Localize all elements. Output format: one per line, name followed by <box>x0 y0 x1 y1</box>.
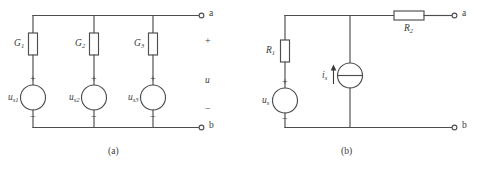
conductance-g1-label: G1 <box>14 39 24 49</box>
voltage-source-us1-body <box>21 85 46 110</box>
conductance-g3-label: G3 <box>134 39 144 49</box>
panel-b-graphics <box>273 11 457 130</box>
panel-b-terminal-a-label: a <box>462 9 466 19</box>
voltage-source-us-minus-sign: − <box>282 114 288 124</box>
conductance-g3-body <box>149 33 158 55</box>
panel-a-terminal-b-label: b <box>209 121 214 131</box>
voltage-source-us3-plus-sign: + <box>150 74 156 84</box>
voltage-source-us-label: us <box>262 96 269 106</box>
voltage-source-us2-body <box>82 85 107 110</box>
voltage-source-us1-plus-sign: + <box>30 74 36 84</box>
current-direction-arrow-icon <box>331 65 337 85</box>
voltage-source-us2-plus-sign: + <box>91 74 97 84</box>
circuit-figure: G1 G2 G3 + us1 − + us2 − + us3 − a b + u… <box>0 0 477 169</box>
panel-a-port-minus-sign: − <box>205 104 211 114</box>
voltage-source-us2-minus-sign: − <box>91 112 97 122</box>
panel-a-port-voltage-label: u <box>205 76 210 86</box>
conductance-g1-body <box>29 33 38 55</box>
voltage-source-us2-label: us2 <box>69 93 80 103</box>
resistor-r2-label: R2 <box>404 24 413 34</box>
current-source-is-label: is <box>322 71 327 81</box>
panel-b-terminal-b-node[interactable] <box>452 125 457 130</box>
panel-a-terminal-a-label: a <box>209 9 213 19</box>
panel-a-graphics <box>21 13 204 130</box>
voltage-source-us3-label: us3 <box>128 93 139 103</box>
conductance-g2-body <box>90 33 99 55</box>
panel-a-port-plus-sign: + <box>205 36 211 46</box>
conductance-g2-label: G2 <box>75 39 85 49</box>
voltage-source-us1-minus-sign: − <box>30 112 36 122</box>
panel-b-terminal-a-node[interactable] <box>452 13 457 18</box>
resistor-r1-body <box>281 40 290 62</box>
voltage-source-us3-minus-sign: − <box>150 112 156 122</box>
resistor-r2-body <box>394 11 424 20</box>
voltage-source-us-body <box>273 88 298 113</box>
voltage-source-us1-label: us1 <box>8 93 19 103</box>
panel-a-terminal-b-node[interactable] <box>199 125 204 130</box>
voltage-source-us-plus-sign: + <box>282 77 288 87</box>
panel-a-caption: (a) <box>108 147 119 157</box>
resistor-r1-label: R1 <box>266 46 275 56</box>
panel-b-caption: (b) <box>341 147 352 157</box>
voltage-source-us3-body <box>141 85 166 110</box>
panel-a-terminal-a-node[interactable] <box>199 13 204 18</box>
panel-b-terminal-b-label: b <box>462 121 467 131</box>
